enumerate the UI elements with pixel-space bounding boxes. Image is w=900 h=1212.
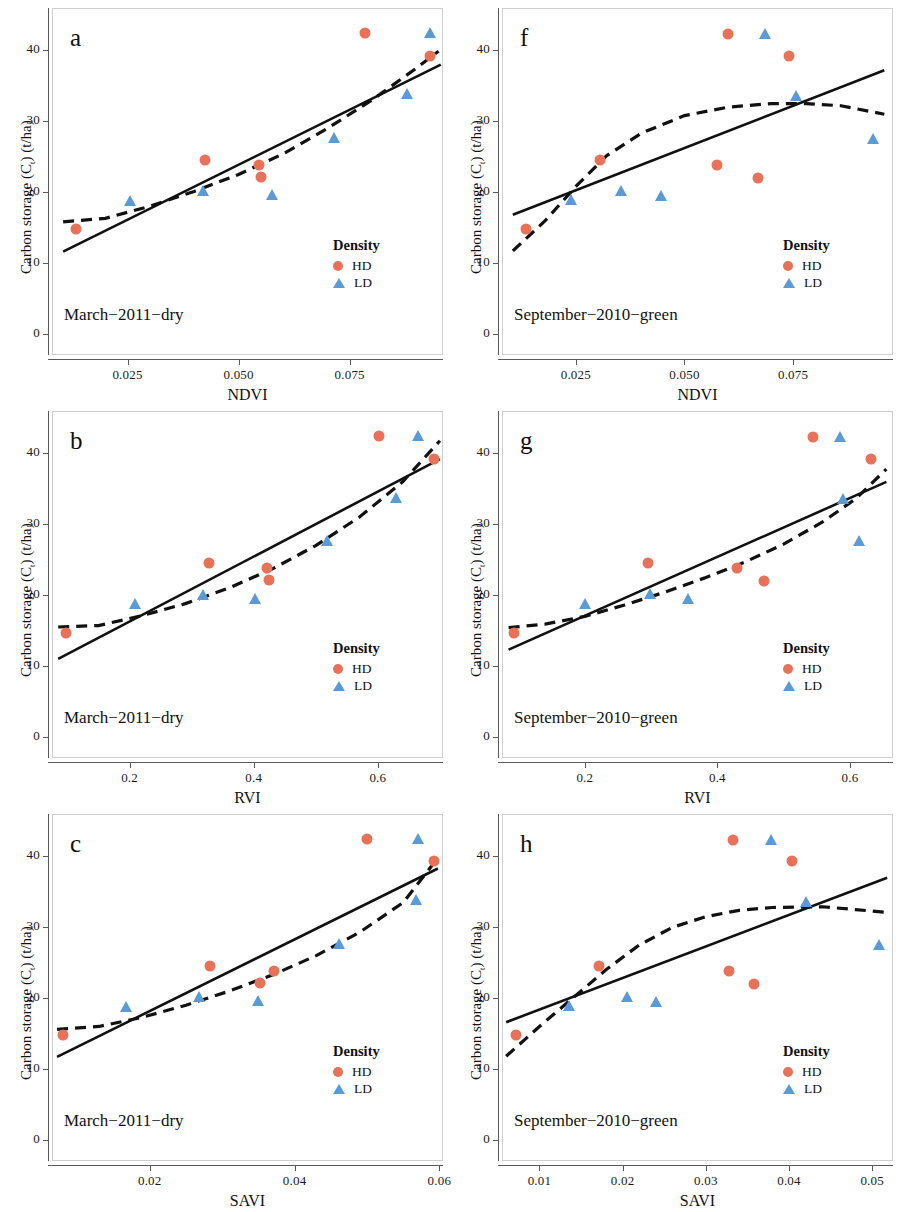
legend-title-g: Density (783, 640, 830, 657)
legend-h: DensityHDLD (783, 1043, 830, 1097)
fit-lines-g (450, 403, 900, 806)
fit-lines-f (450, 0, 900, 403)
legend-title-a: Density (333, 237, 380, 254)
data-point-ld-c-1 (193, 991, 205, 1002)
fit-lines-h (450, 806, 900, 1209)
data-point-hd-b-5 (428, 454, 439, 465)
data-point-ld-f-3 (759, 28, 771, 39)
data-point-hd-h-5 (786, 856, 797, 867)
data-point-ld-h-1 (621, 991, 633, 1002)
legend-label-ld-f: LD (804, 275, 822, 291)
legend-label-hd-b: HD (352, 661, 372, 677)
legend-circle-icon-f (783, 261, 793, 271)
legend-item-ld-f[interactable]: LD (783, 274, 830, 291)
panel-c: 0102030400.020.040.06SAVICarbon storage … (0, 806, 450, 1209)
data-point-ld-a-5 (424, 27, 436, 38)
data-point-hd-g-3 (758, 575, 769, 586)
data-point-hd-b-0 (61, 627, 72, 638)
legend-g: DensityHDLD (783, 640, 830, 694)
legend-item-hd-g[interactable]: HD (783, 660, 830, 677)
data-point-ld-c-3 (333, 938, 345, 949)
legend-label-ld-a: LD (354, 275, 372, 291)
legend-triangle-icon-g (783, 681, 795, 691)
legend-item-hd-a[interactable]: HD (333, 257, 380, 274)
legend-circle-icon-b (333, 664, 343, 674)
data-point-hd-f-1 (594, 155, 605, 166)
legend-item-ld-b[interactable]: LD (333, 677, 380, 694)
legend-item-ld-g[interactable]: LD (783, 677, 830, 694)
data-point-hd-b-1 (204, 557, 215, 568)
legend-circle-icon-c (333, 1067, 343, 1077)
data-point-hd-c-1 (204, 960, 215, 971)
data-point-hd-h-1 (594, 961, 605, 972)
data-point-hd-g-0 (508, 627, 519, 638)
legend-item-ld-a[interactable]: LD (333, 274, 380, 291)
data-point-ld-h-2 (650, 996, 662, 1007)
data-point-ld-g-5 (853, 535, 865, 546)
legend-title-b: Density (333, 640, 380, 657)
legend-triangle-icon-c (333, 1084, 345, 1094)
fit-polynomial-f (513, 104, 884, 251)
legend-triangle-icon-b (333, 681, 345, 691)
data-point-hd-g-1 (642, 557, 653, 568)
fit-lines-a (0, 0, 450, 403)
data-point-hd-b-3 (264, 575, 275, 586)
legend-title-c: Density (333, 1043, 380, 1060)
data-point-ld-b-0 (129, 598, 141, 609)
fit-lines-b (0, 403, 450, 806)
fit-linear-c (57, 869, 438, 1057)
legend-circle-icon-h (783, 1067, 793, 1077)
legend-item-hd-h[interactable]: HD (783, 1063, 830, 1080)
data-point-ld-c-5 (412, 833, 424, 844)
data-point-ld-g-2 (682, 593, 694, 604)
fit-polynomial-h (506, 907, 887, 1056)
legend-item-ld-h[interactable]: LD (783, 1080, 830, 1097)
legend-circle-icon-a (333, 261, 343, 271)
legend-label-hd-a: HD (352, 258, 372, 274)
data-point-ld-a-2 (266, 189, 278, 200)
data-point-ld-f-2 (655, 190, 667, 201)
data-point-hd-g-4 (808, 432, 819, 443)
data-point-ld-f-4 (790, 90, 802, 101)
legend-c: DensityHDLD (333, 1043, 380, 1097)
data-point-hd-h-3 (728, 835, 739, 846)
data-point-hd-g-2 (732, 563, 743, 574)
legend-circle-icon-g (783, 664, 793, 674)
legend-label-hd-f: HD (802, 258, 822, 274)
data-point-ld-g-1 (644, 588, 656, 599)
legend-a: DensityHDLD (333, 237, 380, 291)
data-point-hd-h-2 (724, 966, 735, 977)
data-point-ld-b-3 (321, 535, 333, 546)
data-point-ld-f-5 (867, 133, 879, 144)
data-point-ld-a-3 (328, 132, 340, 143)
legend-label-hd-g: HD (802, 661, 822, 677)
data-point-ld-h-5 (873, 939, 885, 950)
data-point-ld-g-0 (579, 598, 591, 609)
panel-g: 0102030400.20.40.6RVICarbon storage (Ct)… (450, 403, 900, 806)
data-point-hd-a-0 (71, 223, 82, 234)
legend-label-ld-b: LD (354, 678, 372, 694)
legend-item-hd-c[interactable]: HD (333, 1063, 380, 1080)
data-point-hd-c-3 (269, 965, 280, 976)
legend-label-ld-h: LD (804, 1081, 822, 1097)
legend-title-f: Density (783, 237, 830, 254)
data-point-hd-f-3 (722, 29, 733, 40)
data-point-ld-h-3 (765, 834, 777, 845)
legend-triangle-icon-f (783, 278, 795, 288)
data-point-ld-b-2 (249, 593, 261, 604)
legend-triangle-icon-h (783, 1084, 795, 1094)
data-point-ld-g-4 (837, 493, 849, 504)
data-point-hd-c-5 (428, 856, 439, 867)
fit-polynomial-c (57, 858, 438, 1029)
fit-linear-g (509, 482, 887, 650)
data-point-ld-b-4 (390, 492, 402, 503)
legend-item-hd-b[interactable]: HD (333, 660, 380, 677)
legend-item-ld-c[interactable]: LD (333, 1080, 380, 1097)
legend-item-hd-f[interactable]: HD (783, 257, 830, 274)
data-point-hd-a-5 (424, 51, 435, 62)
fit-polynomial-a (63, 51, 438, 222)
data-point-hd-c-2 (254, 978, 265, 989)
data-point-hd-h-0 (511, 1029, 522, 1040)
data-point-ld-c-4 (410, 894, 422, 905)
legend-label-ld-c: LD (354, 1081, 372, 1097)
